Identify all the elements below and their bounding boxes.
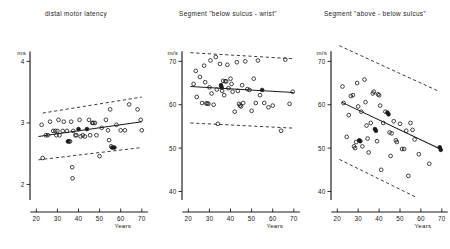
data-point <box>378 104 382 108</box>
data-point <box>411 128 415 132</box>
data-point <box>78 118 82 122</box>
x-tick-label: 30 <box>206 215 214 222</box>
data-point <box>136 108 140 112</box>
data-point <box>243 60 247 64</box>
y-axis-label: m/s <box>316 49 327 56</box>
data-point <box>106 128 110 132</box>
data-point <box>202 64 206 68</box>
confidence-band-upper <box>43 97 142 113</box>
data-point <box>61 129 65 133</box>
confidence-band-lower <box>339 159 416 197</box>
data-point <box>364 100 368 104</box>
data-point <box>198 75 202 79</box>
data-point <box>233 110 237 114</box>
data-point <box>363 78 367 82</box>
data-point <box>218 62 222 66</box>
x-tick-label: 40 <box>375 215 383 222</box>
chart-title: Segment "above - below sulcus" <box>324 10 426 18</box>
data-point <box>260 88 264 92</box>
x-tick-label: 20 <box>33 215 41 222</box>
confidence-band-upper <box>190 53 293 59</box>
y-tick-label: 60 <box>169 101 177 108</box>
x-tick-label: 70 <box>138 215 146 222</box>
data-point <box>254 101 258 105</box>
confidence-band-lower <box>38 148 141 160</box>
y-tick-label: 2 <box>21 181 25 188</box>
data-point <box>252 77 256 81</box>
data-point <box>200 101 204 105</box>
data-point <box>87 118 91 122</box>
data-point <box>241 101 245 105</box>
confidence-band-lower <box>190 123 293 128</box>
x-tick-label: 60 <box>417 215 425 222</box>
y-tick-label: 70 <box>169 58 177 65</box>
data-point <box>195 95 199 99</box>
data-point <box>250 109 254 113</box>
data-point <box>222 93 226 97</box>
data-point <box>203 80 207 84</box>
data-point <box>365 124 369 128</box>
chart-title: Segment "below sulcus - wrist" <box>179 10 277 18</box>
x-tick-label: 60 <box>269 215 277 222</box>
x-axis-label: Years <box>114 222 131 229</box>
x-tick-label: 70 <box>438 215 446 222</box>
data-point <box>123 128 127 132</box>
data-point <box>230 82 234 86</box>
data-point <box>70 165 74 169</box>
x-axis-label: Years <box>266 222 283 229</box>
data-point <box>192 82 196 86</box>
chart-panel-above-below-sulcus: Segment "above - below sulcus"m/s4050607… <box>299 0 450 249</box>
x-tick-label: 50 <box>396 215 404 222</box>
data-point <box>279 129 283 133</box>
data-point <box>108 108 112 112</box>
data-point <box>235 60 239 64</box>
data-point <box>389 154 393 158</box>
data-point <box>98 154 102 158</box>
x-axis-label: Years <box>415 222 432 229</box>
data-point <box>375 139 379 143</box>
data-point <box>140 128 144 132</box>
regression-line <box>341 102 441 150</box>
data-point <box>404 129 408 133</box>
data-point <box>341 85 345 89</box>
data-point <box>409 121 413 125</box>
data-point <box>212 103 216 107</box>
data-point <box>95 133 99 137</box>
data-point <box>374 129 378 133</box>
data-point <box>69 120 73 124</box>
y-tick-label: 4 <box>21 58 25 65</box>
data-point <box>209 59 213 63</box>
data-point <box>85 127 89 131</box>
x-tick-label: 70 <box>290 215 298 222</box>
data-point <box>417 152 421 156</box>
data-point <box>398 122 402 126</box>
data-point <box>210 92 214 96</box>
data-point <box>214 55 218 59</box>
data-point <box>231 90 235 94</box>
y-tick-label: 60 <box>318 101 326 108</box>
figure-container: distal motor latencyms234203040506070Yea… <box>0 0 450 249</box>
x-tick-label: 30 <box>54 215 62 222</box>
data-point <box>347 113 351 117</box>
data-point <box>57 118 61 122</box>
data-point <box>240 83 244 87</box>
data-point <box>358 139 362 143</box>
x-tick-label: 60 <box>117 215 125 222</box>
data-point <box>239 105 243 109</box>
chart-panel-below-sulcus-wrist: Segment "below sulcus - wrist"m/s4050607… <box>150 0 302 249</box>
x-tick-label: 20 <box>185 215 193 222</box>
y-axis-label: m/s <box>167 49 178 56</box>
x-tick-label: 50 <box>248 215 256 222</box>
scatter-plot-svg: distal motor latencyms234203040506070Yea… <box>0 0 152 249</box>
data-point <box>439 148 443 152</box>
data-point <box>229 77 233 81</box>
data-point <box>258 93 262 97</box>
data-point <box>48 120 52 124</box>
data-point <box>379 168 383 172</box>
data-point <box>77 127 81 131</box>
y-tick-label: 3 <box>21 119 25 126</box>
data-point <box>413 138 417 142</box>
x-tick-label: 50 <box>96 215 104 222</box>
x-tick-label: 40 <box>227 215 235 222</box>
data-point <box>387 112 391 116</box>
